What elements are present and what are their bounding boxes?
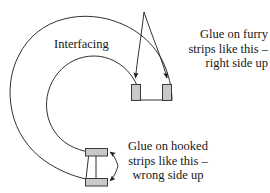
interfacing-label: Interfacing [54, 37, 109, 52]
hooked-strip-top [86, 149, 108, 157]
furry-strip-left [132, 85, 141, 101]
furry-callout-line-2: strips like this – [176, 42, 268, 57]
interfacing-diagram: Interfacing Glue on furry strips like th… [0, 0, 270, 193]
furry-leader-right [144, 12, 167, 78]
hooked-callout-line-2: strips like this – [112, 154, 224, 169]
furry-callout-line-1: Glue on furry [176, 27, 268, 42]
furry-callout-text: Glue on furry strips like this – right s… [176, 27, 268, 71]
hooked-callout-line-1: Glue on hooked [112, 139, 224, 154]
furry-callout-line-3: right side up [176, 56, 268, 71]
interfacing-inner-arc [46, 56, 140, 152]
hooked-callout-line-3: wrong side up [112, 168, 224, 183]
furry-leader-left [136, 12, 145, 78]
hooked-strip-bottom [86, 179, 108, 187]
furry-strip-right [163, 85, 172, 101]
hooked-callout-text: Glue on hooked strips like this – wrong … [112, 139, 224, 183]
